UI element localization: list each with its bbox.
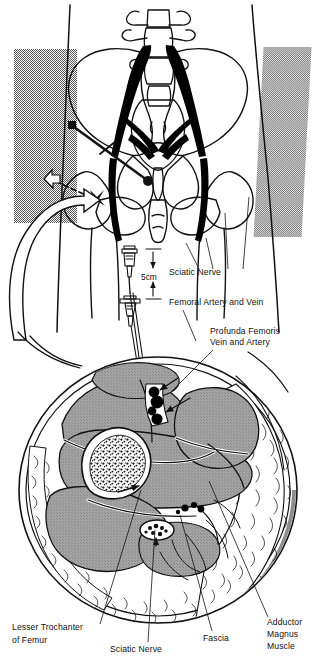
iliac-bones (69, 49, 248, 156)
lesser-trochanter-of-femur (82, 428, 151, 499)
dimension-arrow-5cm: 5cm (141, 249, 161, 299)
label-adductor-magnus-line2: Magnus (267, 629, 298, 639)
medical-illustration-figure: 5cm (0, 0, 316, 663)
label-profunda-femoris-line1: Profunda Femoris (210, 326, 280, 336)
label-sciatic-nerve-upper: Sciatic Nerve (169, 267, 221, 277)
leader-femoral-vessels (183, 310, 196, 341)
label-adductor-magnus-line3: Muscle (267, 641, 295, 651)
needle-hub-upper (122, 246, 137, 293)
label-lesser-trochanter-line1: Lesser Trochanter (12, 622, 83, 632)
label-femoral-artery-and-vein: Femoral Artery and Vein (169, 297, 264, 307)
vessel-femoral-artery (151, 413, 162, 424)
label-profunda-femoris-line2: Vein and Artery (210, 337, 270, 347)
leader-sciatic-1 (186, 243, 199, 269)
label-fascia: Fascia (203, 633, 229, 643)
halftone-block-right (254, 47, 312, 237)
vessel-profunda-mid (151, 396, 164, 409)
leader-sciatic-4 (243, 197, 249, 269)
label-lesser-trochanter-line2: of Femur (12, 635, 47, 645)
sciatic-nerve-cross-section (140, 520, 174, 540)
label-sciatic-nerve-lower: Sciatic Nerve (110, 644, 162, 654)
label-adductor-magnus-line1: Adductor (267, 617, 302, 627)
landmark-point-trochanter (143, 176, 153, 186)
illustration-canvas: 5cm (0, 0, 316, 663)
thigh-cross-section-panel (18, 332, 298, 624)
dimension-label-5cm: 5cm (141, 272, 157, 282)
sciatic-nerve-black (109, 45, 209, 242)
leader-sciatic-2 (206, 238, 213, 269)
